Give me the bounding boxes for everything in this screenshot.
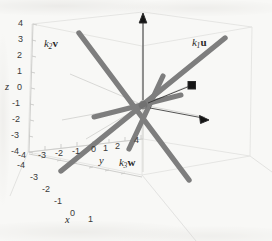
- floor-extension-lines: [10, 152, 272, 241]
- origin-convergence: [139, 101, 148, 110]
- x-arrow-shaft: [150, 108, 203, 118]
- x-tick-m4: -4: [17, 160, 25, 170]
- box-edge-right-back: [250, 27, 252, 156]
- z-tick-0: 0: [17, 82, 22, 92]
- z-tick-3: 3: [18, 34, 23, 44]
- y-tick-2: 2: [115, 141, 120, 151]
- z-arrowhead: [139, 13, 147, 23]
- x-tick-1: 1: [88, 214, 93, 224]
- y-axis-name: y: [99, 155, 104, 166]
- x-tick-0: 0: [70, 208, 75, 218]
- k1u-vector: u: [200, 36, 206, 48]
- vector-plot-figure: k1u k2v k3w 4 3 2 1 0 -1 -2 -3 -4 z -4 -…: [0, 0, 272, 241]
- y-tick-1: 1: [103, 143, 108, 153]
- z-tick-m1: -1: [12, 98, 20, 108]
- z-tick-1: 1: [17, 66, 22, 76]
- x-tick-marks: [41, 157, 125, 174]
- y-tick-m4: -4: [18, 150, 26, 160]
- k3w-vector: w: [127, 156, 135, 168]
- x-tick-m2: -2: [42, 184, 50, 194]
- y-tick-m2: -2: [55, 148, 63, 158]
- plot-canvas: [0, 0, 272, 241]
- x-axis-name: x: [65, 214, 70, 225]
- x-tick-m3: -3: [30, 172, 38, 182]
- z-axis-name: z: [5, 81, 9, 92]
- y-arrowhead: [188, 82, 196, 90]
- vector-label-k3w: k3w: [119, 156, 135, 170]
- z-tick-2: 2: [17, 50, 22, 60]
- vector-label-k2v: k2v: [44, 37, 58, 51]
- y-tick-m3: -3: [38, 150, 46, 160]
- vector-label-k1u: k1u: [192, 36, 207, 50]
- z-tick-m3: -3: [11, 130, 19, 140]
- x-tick-m1: -1: [54, 196, 62, 206]
- y-tick-m1: -1: [72, 146, 80, 156]
- z-tick-4: 4: [18, 18, 23, 28]
- ref-line-d: [143, 105, 205, 117]
- y-tick-0: 0: [91, 144, 96, 154]
- floor-line-far-right: [250, 156, 272, 172]
- floor-line-right: [142, 175, 196, 241]
- y-tick-4: 4: [134, 135, 139, 145]
- z-tick-m2: -2: [12, 114, 20, 124]
- k2v-vector: v: [52, 37, 58, 49]
